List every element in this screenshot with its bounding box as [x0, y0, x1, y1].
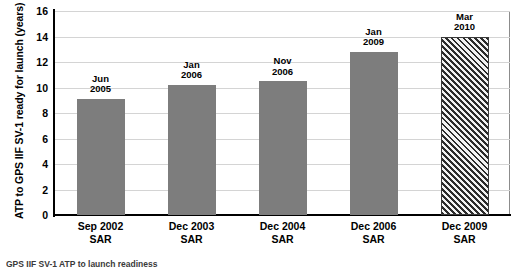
x-tick-line2: SAR: [410, 233, 520, 246]
bar-value-label: Nov2006: [243, 56, 323, 77]
bar-value-label: Jun2005: [61, 74, 141, 95]
bar-label-line2: 2006: [152, 70, 232, 81]
bar-chart: ATP to GPS IIF SV-1 ready for launch (ye…: [0, 0, 523, 268]
bar-label-line2: 2006: [243, 67, 323, 78]
bar[interactable]: [77, 99, 125, 215]
bar-value-label: Mar2010: [425, 12, 505, 33]
bar[interactable]: [350, 52, 398, 215]
bar[interactable]: [259, 81, 307, 215]
bar-value-label: Jan2006: [152, 60, 232, 81]
bar-value-label: Jan2009: [334, 27, 414, 48]
bar-label-line2: 2010: [425, 22, 505, 33]
x-axis-tick-label: Dec 2009SAR: [410, 220, 520, 245]
bar[interactable]: [441, 37, 489, 216]
bar-label-line2: 2009: [334, 37, 414, 48]
clipped-footer-caption: GPS IIF SV-1 ATP to launch readiness: [6, 259, 306, 268]
bar[interactable]: [168, 85, 216, 215]
x-tick-line1: Dec 2009: [410, 220, 520, 233]
bar-label-line2: 2005: [61, 84, 141, 95]
